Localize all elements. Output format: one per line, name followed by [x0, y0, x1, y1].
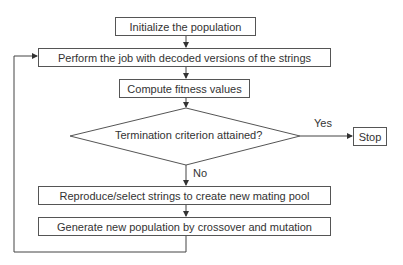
generate-population-box: Generate new population by crossover and…	[38, 217, 331, 236]
reproduce-select-label: Reproduce/select strings to create new m…	[59, 190, 309, 202]
initialize-population-label: Initialize the population	[130, 21, 242, 33]
stop-box: Stop	[353, 127, 387, 146]
initialize-population-box: Initialize the population	[115, 17, 256, 36]
perform-job-label: Perform the job with decoded versions of…	[58, 52, 311, 64]
compute-fitness-box: Compute fitness values	[119, 79, 250, 98]
generate-population-label: Generate new population by crossover and…	[57, 221, 312, 233]
no-label: No	[193, 167, 207, 179]
stop-label: Stop	[359, 131, 382, 143]
yes-label: Yes	[314, 117, 332, 129]
termination-criterion-label: Termination criterion attained?	[115, 129, 257, 141]
perform-job-box: Perform the job with decoded versions of…	[38, 48, 331, 67]
compute-fitness-label: Compute fitness values	[127, 83, 241, 95]
reproduce-select-box: Reproduce/select strings to create new m…	[38, 186, 331, 205]
